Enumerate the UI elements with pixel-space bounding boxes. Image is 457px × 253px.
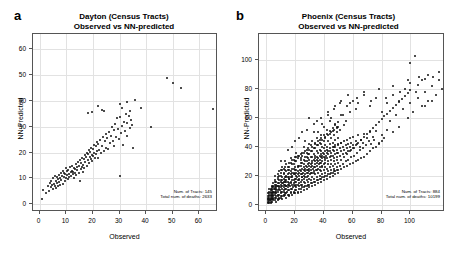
data-point bbox=[123, 121, 125, 123]
data-point bbox=[300, 188, 302, 190]
data-point bbox=[340, 142, 342, 144]
data-point bbox=[363, 133, 365, 135]
gridline-horizontal bbox=[259, 118, 443, 119]
data-point bbox=[337, 162, 339, 164]
data-point bbox=[438, 79, 440, 81]
data-point bbox=[280, 160, 282, 162]
data-point bbox=[87, 153, 89, 155]
data-point bbox=[320, 134, 322, 136]
y-axis-tick bbox=[29, 48, 32, 49]
data-point bbox=[291, 194, 293, 196]
x-axis-tick-label: 40 bbox=[142, 217, 149, 224]
data-point bbox=[281, 169, 283, 171]
data-point bbox=[340, 159, 342, 161]
data-point bbox=[339, 102, 341, 104]
y-axis-tick bbox=[255, 204, 258, 205]
plot-area-phoenix bbox=[258, 33, 444, 211]
data-point bbox=[86, 165, 88, 167]
data-point bbox=[104, 140, 106, 142]
data-point bbox=[352, 162, 354, 164]
data-point bbox=[381, 140, 383, 142]
data-point bbox=[78, 172, 80, 174]
data-point bbox=[336, 152, 338, 154]
data-point bbox=[83, 158, 85, 160]
data-point bbox=[291, 176, 293, 178]
y-axis-tick-label: 60 bbox=[10, 45, 26, 52]
data-point bbox=[64, 180, 66, 182]
data-point bbox=[369, 150, 371, 152]
data-point bbox=[284, 169, 286, 171]
data-point bbox=[355, 160, 357, 162]
data-point bbox=[343, 166, 345, 168]
data-point bbox=[293, 163, 295, 165]
data-point bbox=[336, 166, 338, 168]
data-point bbox=[277, 182, 279, 184]
data-point bbox=[271, 188, 273, 190]
data-point bbox=[424, 91, 426, 93]
data-point bbox=[363, 91, 365, 93]
data-point bbox=[293, 184, 295, 186]
data-point bbox=[62, 183, 64, 185]
x-axis-title-dayton: Observed bbox=[32, 233, 217, 240]
data-point bbox=[355, 140, 357, 142]
y-axis-tick bbox=[29, 152, 32, 153]
x-axis-tick bbox=[119, 211, 120, 214]
data-point bbox=[342, 114, 344, 116]
data-point bbox=[427, 74, 429, 76]
data-point bbox=[392, 85, 394, 87]
data-point bbox=[352, 136, 354, 138]
data-point bbox=[375, 146, 377, 148]
y-axis-tick bbox=[29, 177, 32, 178]
y-axis-tick bbox=[255, 59, 258, 60]
data-point bbox=[78, 165, 80, 167]
data-point bbox=[333, 134, 335, 136]
data-point bbox=[336, 159, 338, 161]
data-point bbox=[95, 153, 97, 155]
data-point bbox=[107, 148, 109, 150]
data-point bbox=[342, 153, 344, 155]
data-point bbox=[346, 139, 348, 141]
data-point bbox=[343, 124, 345, 126]
data-point bbox=[392, 131, 394, 133]
data-point bbox=[288, 166, 290, 168]
data-point bbox=[100, 152, 102, 154]
data-point bbox=[417, 84, 419, 86]
x-axis-tick-label: 60 bbox=[348, 217, 355, 224]
data-point bbox=[353, 155, 355, 157]
data-point bbox=[311, 185, 313, 187]
data-point bbox=[432, 76, 434, 78]
data-point bbox=[113, 145, 115, 147]
data-point bbox=[385, 97, 387, 99]
x-axis-tick bbox=[352, 211, 353, 214]
x-axis-tick bbox=[39, 211, 40, 214]
data-point bbox=[287, 181, 289, 183]
data-point bbox=[114, 123, 116, 125]
data-point bbox=[333, 108, 335, 110]
data-point bbox=[324, 172, 326, 174]
data-point bbox=[75, 163, 77, 165]
y-axis-tick-label: 20 bbox=[236, 171, 252, 178]
x-axis-tick-label: 60 bbox=[195, 217, 202, 224]
data-point bbox=[294, 156, 296, 158]
data-point bbox=[271, 201, 273, 203]
data-point bbox=[326, 146, 328, 148]
panel-title-phoenix-line2: Observed vs NN-predicted bbox=[256, 22, 441, 32]
panel-title-phoenix-line1: Phoenix (Census Tracts) bbox=[256, 12, 441, 22]
data-point bbox=[337, 137, 339, 139]
data-point bbox=[395, 114, 397, 116]
y-axis-tick-label: 40 bbox=[10, 97, 26, 104]
data-point bbox=[310, 182, 312, 184]
data-point bbox=[319, 142, 321, 144]
data-point bbox=[113, 129, 115, 131]
data-point bbox=[323, 140, 325, 142]
data-point bbox=[317, 172, 319, 174]
data-point bbox=[407, 92, 409, 94]
data-point bbox=[326, 129, 328, 131]
data-point bbox=[297, 184, 299, 186]
data-point bbox=[97, 157, 99, 159]
data-point bbox=[76, 169, 78, 171]
data-point bbox=[105, 133, 107, 135]
data-point bbox=[431, 100, 433, 102]
data-point bbox=[124, 130, 126, 132]
data-point bbox=[59, 184, 61, 186]
